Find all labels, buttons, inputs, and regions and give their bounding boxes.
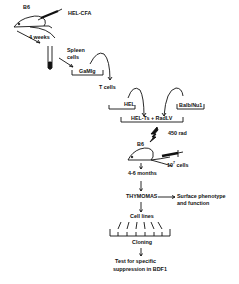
lightning-icon [150, 127, 158, 142]
cloning-tray [110, 229, 170, 236]
fusion-label: HEL-Ts + RadLV [131, 116, 172, 121]
cloning-label: Cloning [132, 240, 152, 245]
test-label: Test for specific [115, 259, 156, 264]
syringe-icon [38, 9, 62, 20]
hel-label: HEL [124, 102, 135, 107]
cell-dose-exp: 7 [173, 161, 175, 165]
balb-label: Balb/Nu1 [179, 103, 202, 108]
panning-label: GaMIg [79, 69, 95, 74]
spleen-label-2: cells [67, 55, 79, 60]
thymomas-label: THYMOMAS [126, 194, 157, 199]
irradiation-label: 450 rad [168, 131, 187, 136]
cloning-arrows [118, 222, 162, 229]
mouse-icon [14, 16, 52, 28]
interval-label-2: 4-6 months [128, 171, 157, 176]
immunogen-label: HEL-CFA [68, 11, 91, 16]
strain-label: B6 [23, 5, 30, 10]
test-tube-icon [48, 46, 52, 70]
syringe-icon [162, 150, 183, 157]
phenotype-label: Surface phenotype [177, 194, 226, 199]
interval-label: 4 weeks [29, 35, 50, 40]
cell-lines-label: Cell lines [130, 214, 154, 219]
mouse-icon [128, 148, 172, 166]
t-cells-label: T cells [99, 85, 116, 90]
diagram-lines [0, 0, 239, 284]
cell-dose-unit: cells [176, 162, 188, 168]
phenotype-label-2: and function [177, 201, 209, 206]
strain-label-2: B6 [137, 142, 144, 147]
spleen-label: Spleen [67, 48, 85, 53]
cell-dose-label: 107 cells [167, 162, 188, 168]
test-label-2: suppression in BDF1 [113, 267, 167, 272]
